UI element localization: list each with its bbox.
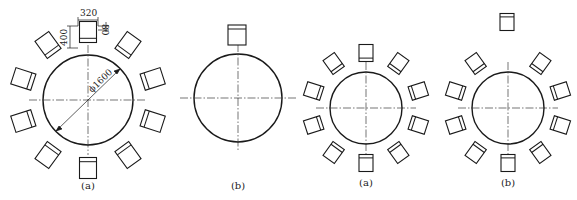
figure-fig4 [445,14,570,172]
chair-icon [359,45,373,62]
figure-label-1a: (a) [81,180,95,191]
chair-icon [530,53,551,75]
figure-fig3 [303,45,428,172]
chair-icon [388,53,409,75]
chair-icon [445,116,465,135]
chair-icon [115,142,141,169]
chair-icon [550,82,570,101]
chair-icon [115,31,141,58]
chair-icon [359,155,373,172]
backrest-dimension: 80 [100,24,110,36]
chair-icon [303,82,323,101]
chair-icon [323,53,344,75]
chair-icon [11,68,36,91]
chair-width-dimension: 320 [80,8,97,18]
chair-icon [303,116,323,135]
chair-icon [323,142,344,164]
figure-label-2b: (b) [231,180,245,191]
chair-icon [11,110,36,133]
chair-icon [408,116,428,135]
figure-label-3a: (a) [359,177,373,188]
chair-icon [35,31,61,58]
table-diameter-dimension: ϕ1600 [86,67,114,95]
chair-icon [35,142,61,169]
chair-depth-dimension: 400 [59,29,69,46]
chair-icon [465,142,486,164]
chair-icon [80,158,97,179]
chair-icon [388,142,409,164]
chair-icon [550,116,570,135]
figure-label-4b: (b) [501,177,515,188]
chair-icon [445,82,465,101]
displaced-chair-icon [228,25,246,45]
round-table-layout-diagram: 320 400 80 ϕ1600 [0,0,577,200]
displaced-chair-icon [500,14,514,31]
chair-icon [140,68,165,91]
chair-icon [408,82,428,101]
chair-icon [465,53,486,75]
figure-fig2 [180,25,296,152]
chair-icon [80,22,97,43]
chair-icon [140,110,165,133]
chair-icon [530,142,551,164]
chair-icon [501,155,515,172]
